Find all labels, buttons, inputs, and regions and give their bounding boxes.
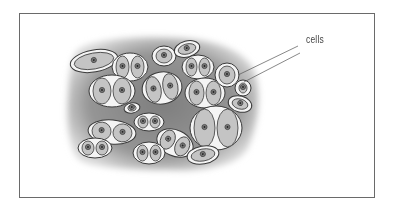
- tissue-illustration: [0, 0, 396, 211]
- cell-group: [152, 46, 176, 66]
- cell-group: [215, 63, 239, 87]
- cell-group: [89, 75, 135, 107]
- cell-group: [182, 55, 214, 79]
- cell-group: [78, 138, 112, 158]
- cells-label: cells: [306, 34, 324, 45]
- cell-group: [235, 80, 251, 96]
- cell-group: [134, 113, 164, 131]
- cell-group: [190, 106, 242, 150]
- cell-group: [133, 142, 165, 164]
